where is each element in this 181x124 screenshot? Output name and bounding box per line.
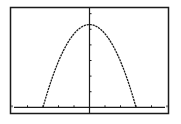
graph-screen <box>0 0 181 124</box>
